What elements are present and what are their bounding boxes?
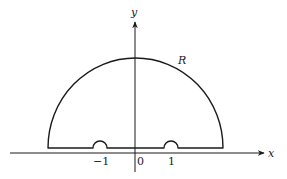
contour-diagram: y x R −1 0 1 bbox=[0, 0, 287, 179]
contour-label: R bbox=[177, 54, 186, 67]
tick-label-zero: 0 bbox=[137, 155, 144, 168]
y-axis-label: y bbox=[130, 6, 138, 19]
tick-label-neg-one: −1 bbox=[93, 155, 109, 168]
x-axis-label: x bbox=[268, 147, 275, 160]
tick-label-one: 1 bbox=[168, 155, 175, 168]
